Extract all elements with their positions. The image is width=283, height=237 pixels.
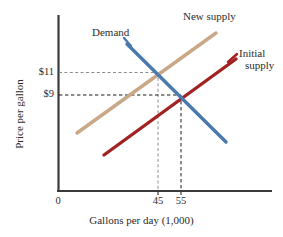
series-label-initial-supply: Initial supply [239,48,274,72]
chart-plot-area [0,0,283,237]
series-label-new-supply: New supply [183,11,236,23]
supply-demand-chart: Price per gallon $11 $9 0 45 55 Gallons … [0,0,283,237]
x-tick-label-45: 45 [146,195,170,206]
series-line-new-supply [77,33,216,133]
series-label-demand: Demand [92,27,129,39]
series-line-initial-supply [104,59,236,155]
x-axis-title: Gallons per day (1,000) [0,214,283,226]
y-tick-label-9: $9 [24,88,54,99]
series-label-initial-supply-line2: supply [239,60,274,72]
y-tick-label-11: $11 [24,66,54,77]
x-tick-label-origin: 0 [46,195,70,206]
x-tick-label-55: 55 [169,195,193,206]
